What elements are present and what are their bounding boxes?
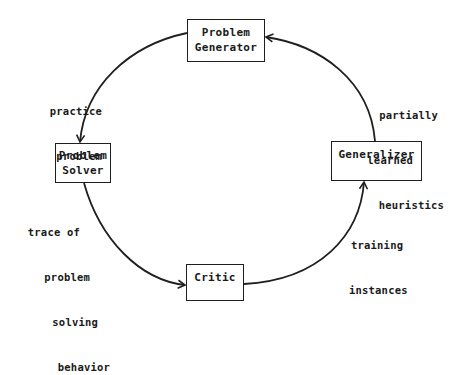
edge-label-line: solving — [20, 315, 110, 330]
edge-label-line: trace of — [20, 225, 110, 240]
edge-label-line: partially — [340, 108, 444, 123]
edge-label-line: training — [349, 238, 408, 253]
edge-label-line: practice — [40, 104, 102, 119]
edge-label-line: problem — [20, 270, 110, 285]
edge-label-trace-of-problem-solving-behavior: trace of problem solving behavior — [20, 195, 110, 375]
edge-label-partially-learned-heuristics: partially learned heuristics — [340, 78, 444, 228]
node-label-line: Problem — [188, 25, 264, 40]
edge-label-line: behavior — [20, 360, 110, 375]
node-problem-generator: Problem Generator — [187, 19, 265, 62]
edge-label-practice-problem: practice problem — [40, 74, 102, 179]
edge-label-line: problem — [40, 149, 102, 164]
edge-label-line: learned — [340, 153, 444, 168]
node-label-line: Critic — [187, 270, 243, 285]
node-label-line: Generator — [188, 40, 264, 55]
edge-label-line: instances — [349, 283, 408, 298]
node-critic: Critic — [186, 264, 244, 301]
edge-label-line: heuristics — [340, 198, 444, 213]
